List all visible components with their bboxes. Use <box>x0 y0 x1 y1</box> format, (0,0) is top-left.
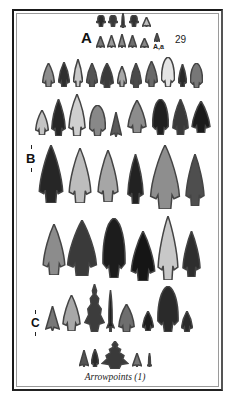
arrowpoint-row-b-6 <box>185 154 205 206</box>
arrowpoint-row-a-bottom-6 <box>154 33 160 42</box>
plate-number: 29 <box>175 34 186 45</box>
arrowpoint-row-c-2 <box>62 295 81 331</box>
arrowpoint-row-bottom-4 <box>132 353 142 367</box>
arrowpoint-row-bottom-2 <box>91 349 99 367</box>
arrowpoint-row-3-4 <box>89 105 106 136</box>
arrowpoint-row-3-1 <box>35 110 49 135</box>
arrowpoint-row-2-7 <box>130 63 142 88</box>
arrowpoint-row-c-4 <box>106 290 115 332</box>
arrowpoint-row-3-3 <box>68 94 86 136</box>
arrowpoint-row-3-5 <box>110 112 122 137</box>
arrowpoint-row-a-top-1 <box>96 15 106 27</box>
arrowpoint-row-a-bottom-1 <box>96 36 105 48</box>
arrowpoint-row-bottom-3 <box>101 341 129 369</box>
arrowpoint-row-2-8 <box>145 61 158 87</box>
arrowpoint-row-2-6 <box>117 66 127 87</box>
arrowpoint-row-c-5 <box>118 304 135 332</box>
arrowpoint-row-3-2 <box>51 99 66 136</box>
label-c-tick-top <box>35 310 36 314</box>
arrowpoint-row-b-2 <box>68 148 92 203</box>
arrowpoint-row-3-7 <box>152 99 169 135</box>
arrowpoint-row-3-6 <box>127 100 147 133</box>
arrowpoint-row-c-6 <box>142 311 154 331</box>
group-label-a: A <box>81 29 92 46</box>
arrowpoint-row-a-bottom-5 <box>140 38 149 48</box>
arrowpoint-row-a-bottom-3 <box>118 34 126 48</box>
arrowpoint-row-bottom-1 <box>79 350 89 367</box>
arrowpoint-row-a-top-3 <box>120 13 126 28</box>
arrowpoint-row-2-4 <box>86 63 98 87</box>
arrowpoint-row-b-5 <box>149 145 181 209</box>
label-c-tick-bottom <box>35 332 36 336</box>
plate-caption: Arrowpoints (1) <box>0 372 230 382</box>
arrowpoint-row-2-9 <box>161 57 175 87</box>
group-label-b: B <box>26 151 35 166</box>
arrowpoint-row-4-2 <box>66 220 98 276</box>
arrowpoint-row-3-9 <box>191 101 211 133</box>
arrowpoint-row-c-8 <box>181 311 193 332</box>
arrowpoint-row-a-top-2 <box>108 15 118 27</box>
group-sublabel-a-a: A,a <box>153 43 164 50</box>
arrowpoint-row-b-4 <box>127 154 144 204</box>
arrowpoint-row-3-8 <box>172 99 189 135</box>
arrowpoint-row-a-top-5 <box>142 17 151 27</box>
arrowpoint-row-2-11 <box>190 63 203 88</box>
arrowpoint-row-2-10 <box>178 64 187 87</box>
group-label-c: C <box>31 316 40 330</box>
arrowpoint-row-2-2 <box>58 62 70 87</box>
arrowpoint-row-b-1 <box>38 145 64 203</box>
arrowpoint-row-c-1 <box>45 306 60 331</box>
arrowpoint-plate <box>0 0 230 401</box>
arrowpoint-row-a-top-4 <box>129 15 139 27</box>
arrowpoint-row-c-3 <box>84 284 105 332</box>
arrowpoint-row-4-4 <box>130 231 156 281</box>
arrowpoint-row-4-3 <box>102 218 126 278</box>
arrowpoint-row-2-5 <box>100 63 114 88</box>
arrowpoint-row-a-bottom-4 <box>128 35 137 48</box>
arrowpoint-row-a-bottom-2 <box>107 35 116 48</box>
arrowpoint-row-b-3 <box>97 150 119 202</box>
label-b-tick-bottom <box>31 168 32 172</box>
arrowpoint-row-4-1 <box>42 224 66 275</box>
arrowpoint-row-4-5 <box>157 216 179 280</box>
arrowpoint-row-4-6 <box>182 231 201 277</box>
arrowpoint-row-2-3 <box>73 59 83 87</box>
label-b-tick-top <box>31 145 32 149</box>
arrowpoint-row-c-7 <box>157 286 179 332</box>
arrowpoint-row-bottom-5 <box>147 353 152 367</box>
arrowpoint-row-2-1 <box>42 63 55 87</box>
